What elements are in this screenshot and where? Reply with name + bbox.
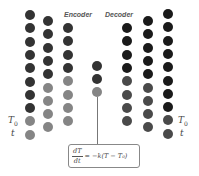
decoder-col-2-node <box>143 16 153 26</box>
decoder-col-1-node <box>122 63 132 73</box>
decoder-col-1-node <box>122 36 132 46</box>
encoder-col-1-node <box>25 63 35 73</box>
encoder-col-1-node <box>25 77 35 87</box>
right-t0-label: T0 <box>178 115 188 127</box>
derivative-fraction: dT dt <box>72 148 83 164</box>
encoder-col-2-node <box>43 122 53 132</box>
encoder-col-3-node <box>63 23 73 33</box>
decoder-col-3-node <box>163 49 173 59</box>
encoder-col-3-node <box>63 103 73 113</box>
decoder-col-2-node <box>143 69 153 79</box>
encoder-col-1-node <box>25 37 35 47</box>
encoder-col-1-node <box>25 90 35 100</box>
latent-col-node <box>92 74 102 84</box>
decoder-col-1-node <box>122 23 132 33</box>
decoder-col-1-node <box>122 50 132 60</box>
decoder-col-3-node <box>163 129 173 139</box>
decoder-col-2-node <box>143 96 153 106</box>
decoder-col-2-node <box>143 43 153 53</box>
encoder-col-1-node <box>25 130 35 140</box>
encoder-col-3-node <box>63 36 73 46</box>
encoder-col-1-node <box>25 50 35 60</box>
decoder-col-1-node <box>122 76 132 86</box>
decoder-col-3-node <box>163 36 173 46</box>
encoder-col-2-node <box>43 109 53 119</box>
right-t-label: t <box>180 128 184 138</box>
decoder-col-2-node <box>143 56 153 66</box>
decoder-col-3-node <box>163 115 173 125</box>
equation-rhs: = −k(T − T₀) <box>85 152 128 160</box>
encoder-col-2-node <box>43 29 53 39</box>
decoder-col-3-node <box>163 22 173 32</box>
decoder-label: Decoder <box>105 11 133 18</box>
latent-col-node <box>92 61 102 71</box>
encoder-col-2-node <box>43 96 53 106</box>
encoder-col-3-node <box>63 76 73 86</box>
decoder-col-2-node <box>143 83 153 93</box>
decoder-col-3-node <box>163 76 173 86</box>
latent-col-node <box>92 87 102 97</box>
encoder-col-1-node <box>25 103 35 113</box>
left-t-label: t <box>11 128 15 138</box>
encoder-col-2-node <box>43 69 53 79</box>
encoder-col-2-node <box>43 43 53 53</box>
encoder-col-1-node <box>25 10 35 20</box>
decoder-col-3-node <box>163 9 173 19</box>
encoder-col-3-node <box>63 90 73 100</box>
decoder-col-1-node <box>122 116 132 126</box>
decoder-col-3-node <box>163 102 173 112</box>
encoder-label: Encoder <box>64 11 92 18</box>
decoder-col-3-node <box>163 62 173 72</box>
decoder-col-1-node <box>122 90 132 100</box>
encoder-col-3-node <box>63 63 73 73</box>
ode-equation-box: dT dt = −k(T − T₀) <box>68 144 140 168</box>
latent-to-equation-connector <box>97 97 98 144</box>
left-t0-label: T0 <box>8 115 18 127</box>
decoder-col-2-node <box>143 122 153 132</box>
encoder-col-3-node <box>63 116 73 126</box>
encoder-col-2-node <box>43 56 53 66</box>
encoder-col-1-node <box>25 116 35 126</box>
decoder-col-2-node <box>143 109 153 119</box>
encoder-col-2-node <box>43 83 53 93</box>
decoder-col-3-node <box>163 89 173 99</box>
encoder-col-3-node <box>63 50 73 60</box>
decoder-col-1-node <box>122 103 132 113</box>
encoder-col-1-node <box>25 23 35 33</box>
decoder-col-2-node <box>143 29 153 39</box>
encoder-col-2-node <box>43 16 53 26</box>
